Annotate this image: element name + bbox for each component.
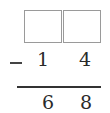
minus-sign: [10, 62, 22, 64]
subtrahend-ones: 4: [79, 50, 91, 69]
answer-box-tens[interactable]: [24, 10, 62, 43]
answer-box-ones[interactable]: [63, 10, 101, 43]
sum-line: [17, 86, 101, 88]
difference-ones: 8: [80, 93, 92, 112]
subtrahend-tens: 1: [37, 50, 49, 69]
difference-tens: 6: [42, 93, 54, 112]
